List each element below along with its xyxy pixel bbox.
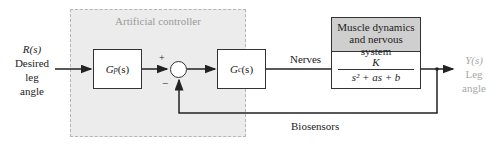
output-desc-line-2: angle	[458, 81, 490, 95]
minus-sign: −	[162, 76, 168, 90]
input-desc-line-3: angle	[14, 84, 50, 98]
input-signal: R(s)	[14, 42, 50, 56]
output-label: Y(s) Leg angle	[458, 53, 490, 95]
plus-sign: +	[159, 51, 165, 65]
summing-junction	[170, 61, 187, 78]
prefilter-block-gp: Gp(s)	[93, 49, 142, 89]
plant-title: Muscle dynamics and nervous system	[332, 18, 420, 52]
plant-title-line-1: Muscle dynamics	[334, 21, 418, 33]
gc-base: G	[230, 63, 238, 75]
input-desc-line-2: leg	[14, 70, 50, 84]
gp-base: G	[106, 63, 114, 75]
nerves-label: Nerves	[290, 52, 321, 66]
gp-arg: (s)	[118, 63, 130, 75]
output-signal: Y(s)	[458, 53, 490, 67]
input-desc-line-1: Desired	[14, 56, 50, 70]
gc-arg: (s)	[241, 63, 253, 75]
plant-block: Muscle dynamics and nervous system K s² …	[331, 17, 421, 89]
plant-transfer-function: K s² + as + b	[332, 56, 420, 83]
controller-block-gc: Gc(s)	[217, 49, 266, 89]
plant-title-line-2: and nervous system	[334, 33, 418, 57]
output-desc-line-1: Leg	[458, 67, 490, 81]
biosensors-label: Biosensors	[291, 119, 339, 133]
input-label: R(s) Desired leg angle	[14, 42, 50, 98]
plant-denominator: s² + as + b	[352, 70, 401, 83]
plant-numerator: K	[368, 56, 383, 69]
